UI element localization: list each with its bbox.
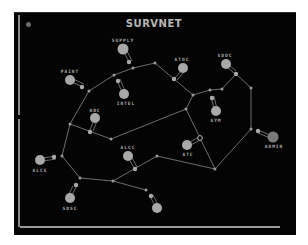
station-label-gym: GYM [210,118,221,123]
station-node-supply[interactable] [118,44,129,55]
network-map [0,0,308,245]
network-links [62,63,251,190]
station-label-admin: ADMIN [265,144,284,149]
station-node-unlabeled[interactable] [152,203,162,213]
station-label-paint: PAINT [61,69,80,74]
station-label-alce: ALCE [33,168,48,173]
station-node-alce[interactable] [35,155,45,165]
station-label-supply: SUPPLY [112,38,134,43]
station-node-paint[interactable] [65,75,75,85]
station-node-atoc[interactable] [178,63,188,73]
station-label-sdoc: SDOC [218,53,233,58]
station-label-alcc: ALCC [121,145,136,150]
junction-nodes [61,62,253,192]
station-node-atc[interactable] [182,140,192,150]
station-label-sdsc: SDSC [63,206,78,211]
station-label-intel: INTEL [117,101,136,106]
station-node-admin[interactable] [268,132,279,143]
station-node-gym[interactable] [211,106,221,116]
station-label-hoc: HOC [89,108,100,113]
station-label-atoc: ATOC [175,57,190,62]
station-node-sdsc[interactable] [65,193,75,203]
station-node-alcc[interactable] [123,151,133,161]
station-node-hoc[interactable] [90,113,100,123]
station-label-atc: ATC [182,152,193,157]
station-node-sdoc[interactable] [221,59,231,69]
station-node-intel[interactable] [119,89,129,99]
